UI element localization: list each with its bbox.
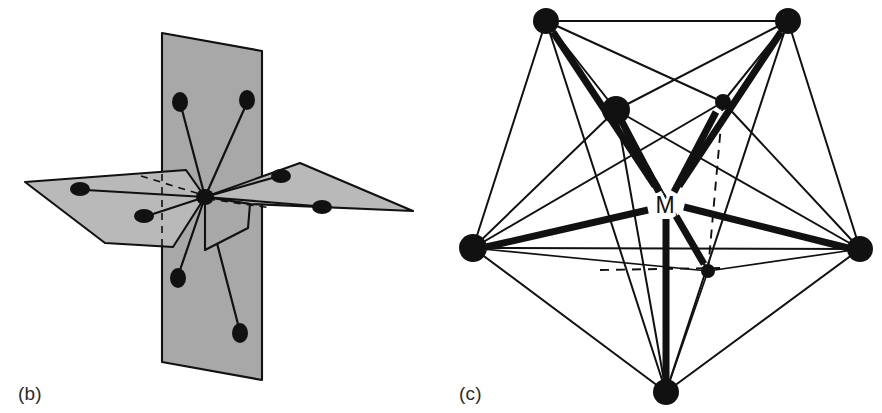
ligand-left-near (134, 209, 154, 223)
mbond-to-topright (679, 32, 781, 186)
ligand-top-left (172, 92, 188, 112)
edge-topleft-bottom (546, 21, 666, 392)
edge-innerbottom-right (708, 249, 860, 271)
vertex-bottom (653, 379, 679, 405)
panel-c-drawing: M M (441, 0, 882, 413)
ligand-top-right (239, 90, 255, 110)
ligand-left-far (70, 182, 90, 196)
vertex-inner-bottom (701, 264, 715, 278)
center-atom (196, 189, 214, 205)
panel-b: (b) (0, 0, 441, 413)
ligand-right-far (312, 200, 332, 214)
ligand-right-near (271, 169, 291, 183)
vertex-inner-left (602, 96, 630, 124)
panel-c: M M (c) (441, 0, 882, 413)
vertex-top-left (533, 8, 559, 34)
edge-innerbottom-left (473, 248, 708, 271)
vertex-inner-right (715, 94, 731, 110)
vertex-left (459, 234, 487, 262)
panel-b-drawing (0, 0, 441, 413)
vertex-right (847, 236, 873, 262)
vertex-top-right (775, 8, 801, 34)
ligand-bottom-left (170, 268, 186, 288)
panel-b-caption: (b) (18, 383, 42, 405)
panel-c-caption: (c) (459, 383, 482, 405)
edge-right-innerright (723, 102, 860, 249)
ligand-bottom-right (232, 323, 248, 343)
metal-label: M (655, 192, 674, 218)
mbond-to-left (486, 210, 648, 247)
figure-root: (b) (0, 0, 882, 413)
horizontal-plane-left (25, 170, 205, 247)
mbond-to-innerbottom (676, 216, 704, 264)
edge-innerbottom-bottom (666, 271, 708, 392)
